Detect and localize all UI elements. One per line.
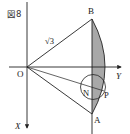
label-radius: √3 [45, 36, 54, 46]
label-a: A [94, 115, 101, 125]
label-b: B [88, 6, 94, 16]
label-p: P [104, 90, 109, 100]
label-y-axis: Y [116, 71, 122, 81]
label-n: N [83, 88, 89, 98]
label-x-axis: X [14, 121, 21, 131]
figure-caption: 図8 [7, 9, 21, 19]
segment-ob [27, 19, 92, 67]
label-origin: O [17, 69, 24, 79]
figure-8-diagram: 図8 B √3 O Y N P A X [0, 0, 130, 134]
